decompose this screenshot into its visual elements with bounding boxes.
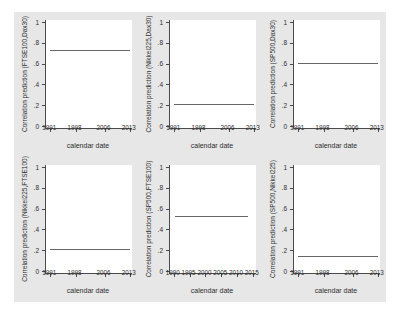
y-tick <box>166 43 169 44</box>
y-tick <box>42 167 45 168</box>
y-tick <box>166 188 169 189</box>
y-tick <box>290 167 293 168</box>
y-tick <box>42 250 45 251</box>
x-tick-label: 1991 <box>285 269 309 276</box>
y-tick <box>166 250 169 251</box>
y-tick-label: .6 <box>272 205 287 212</box>
plot-area: 0.2.4.6.81 <box>45 165 132 274</box>
plot-area: 0.2.4.6.81 <box>169 165 256 274</box>
x-axis-title: calendar date <box>45 287 131 294</box>
subplot: Correlation prediction (SP500,Dax30) 0.2… <box>262 12 386 157</box>
y-tick-label: .8 <box>24 39 39 46</box>
y-tick-label: 1 <box>272 19 287 26</box>
y-tick-label: .2 <box>272 247 287 254</box>
y-axis-title: Correlation prediction (SP500,Nikkei225) <box>269 160 276 278</box>
correlation-line <box>298 63 378 64</box>
y-tick-label: .8 <box>272 39 287 46</box>
y-tick <box>290 84 293 85</box>
y-tick <box>166 84 169 85</box>
subplot: Correlation prediction (SP500,Nikkei225)… <box>262 157 386 302</box>
correlation-prediction-figure: Correlation prediction (FTSE100,Dax30) 0… <box>14 12 386 302</box>
y-tick <box>290 250 293 251</box>
y-axis-title: Correlation prediction (SP500,FTSE100) <box>145 161 152 278</box>
y-tick <box>166 64 169 65</box>
x-tick-label: 1991 <box>37 124 61 131</box>
y-tick-label: .8 <box>272 184 287 191</box>
subplot: Correlation prediction (FTSE100,Dax30) 0… <box>14 12 138 157</box>
y-tick <box>42 105 45 106</box>
y-tick <box>290 105 293 106</box>
correlation-line <box>174 104 254 105</box>
y-tick <box>42 209 45 210</box>
x-tick-label: 2013 <box>365 124 389 131</box>
y-tick-label: 1 <box>148 19 163 26</box>
y-tick <box>42 229 45 230</box>
y-tick <box>290 43 293 44</box>
y-tick <box>290 229 293 230</box>
y-tick-label: .6 <box>24 205 39 212</box>
y-tick <box>42 22 45 23</box>
y-tick-label: .6 <box>148 205 163 212</box>
x-axis-title: calendar date <box>169 287 255 294</box>
y-tick-label: 1 <box>272 164 287 171</box>
y-tick <box>166 229 169 230</box>
y-tick-label: .6 <box>272 60 287 67</box>
x-tick-label: 2006 <box>92 269 116 276</box>
plot-area: 0.2.4.6.81 <box>293 20 380 129</box>
y-tick-label: .6 <box>148 60 163 67</box>
y-tick <box>290 188 293 189</box>
y-tick-label: .8 <box>148 39 163 46</box>
x-tick-label: 1991 <box>285 124 309 131</box>
y-axis-title: Correlation prediction (Nikkei225,FTSE10… <box>21 156 28 282</box>
x-tick-label: 2006 <box>340 269 364 276</box>
subplot: Correlation prediction (Nikkei225,FTSE10… <box>14 157 138 302</box>
y-tick <box>42 64 45 65</box>
x-tick-label: 2015 <box>240 269 264 276</box>
y-tick-label: .4 <box>24 226 39 233</box>
y-tick-label: .8 <box>24 184 39 191</box>
y-tick-label: .6 <box>24 60 39 67</box>
y-tick <box>290 22 293 23</box>
y-tick-label: .2 <box>148 102 163 109</box>
y-tick <box>166 105 169 106</box>
x-tick-label: 1998 <box>311 124 335 131</box>
correlation-line <box>50 50 130 51</box>
x-tick-label: 1998 <box>63 269 87 276</box>
y-tick <box>166 22 169 23</box>
x-tick-label: 2006 <box>216 124 240 131</box>
y-tick-label: .2 <box>24 247 39 254</box>
x-axis-title: calendar date <box>169 142 255 149</box>
y-tick-label: .8 <box>148 184 163 191</box>
x-tick-label: 1991 <box>161 124 185 131</box>
y-tick-label: .4 <box>148 226 163 233</box>
y-tick-label: .4 <box>148 81 163 88</box>
y-tick <box>42 188 45 189</box>
x-axis-title: calendar date <box>293 142 379 149</box>
subplot: Correlation prediction (Nikkei225,Dax30)… <box>138 12 262 157</box>
y-axis-title: Correlation prediction (FTSE100,Dax30) <box>21 16 28 132</box>
plot-area: 0.2.4.6.81 <box>293 165 380 274</box>
y-tick <box>166 209 169 210</box>
correlation-line <box>175 216 248 217</box>
y-axis-title: Correlation prediction (Nikkei225,Dax30) <box>145 15 152 132</box>
x-axis-title: calendar date <box>293 287 379 294</box>
x-axis-title: calendar date <box>45 142 131 149</box>
y-tick <box>290 209 293 210</box>
x-tick-label: 1998 <box>63 124 87 131</box>
y-tick <box>42 43 45 44</box>
x-tick-label: 1991 <box>37 269 61 276</box>
y-tick <box>42 84 45 85</box>
subplot: Correlation prediction (SP500,FTSE100) 0… <box>138 157 262 302</box>
y-axis-title: Correlation prediction (SP500,Dax30) <box>269 20 276 128</box>
x-tick-label: 2006 <box>92 124 116 131</box>
correlation-line <box>298 256 378 257</box>
plot-area: 0.2.4.6.81 <box>45 20 132 129</box>
y-tick-label: .4 <box>272 226 287 233</box>
y-tick-label: .2 <box>272 102 287 109</box>
y-tick-label: 1 <box>24 19 39 26</box>
figure-canvas: Correlation prediction (FTSE100,Dax30) 0… <box>0 0 397 315</box>
x-tick-label: 1998 <box>187 124 211 131</box>
y-tick <box>290 64 293 65</box>
x-tick-label: 2006 <box>340 124 364 131</box>
y-tick-label: .2 <box>24 102 39 109</box>
